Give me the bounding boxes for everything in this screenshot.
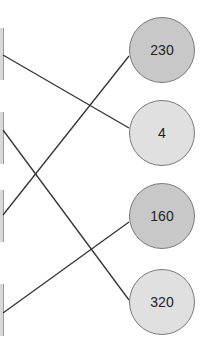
connector-line [3, 222, 129, 313]
node-230: 230 [129, 17, 195, 83]
node-label: 4 [158, 125, 166, 141]
node-label: 230 [150, 42, 173, 58]
node-label: 160 [150, 208, 173, 224]
node-4: 4 [129, 100, 195, 166]
connector-line [3, 130, 129, 300]
connector-line [3, 56, 129, 215]
connector-line [3, 55, 129, 128]
node-320: 320 [129, 269, 195, 335]
node-label: 320 [150, 294, 173, 310]
node-160: 160 [129, 183, 195, 249]
